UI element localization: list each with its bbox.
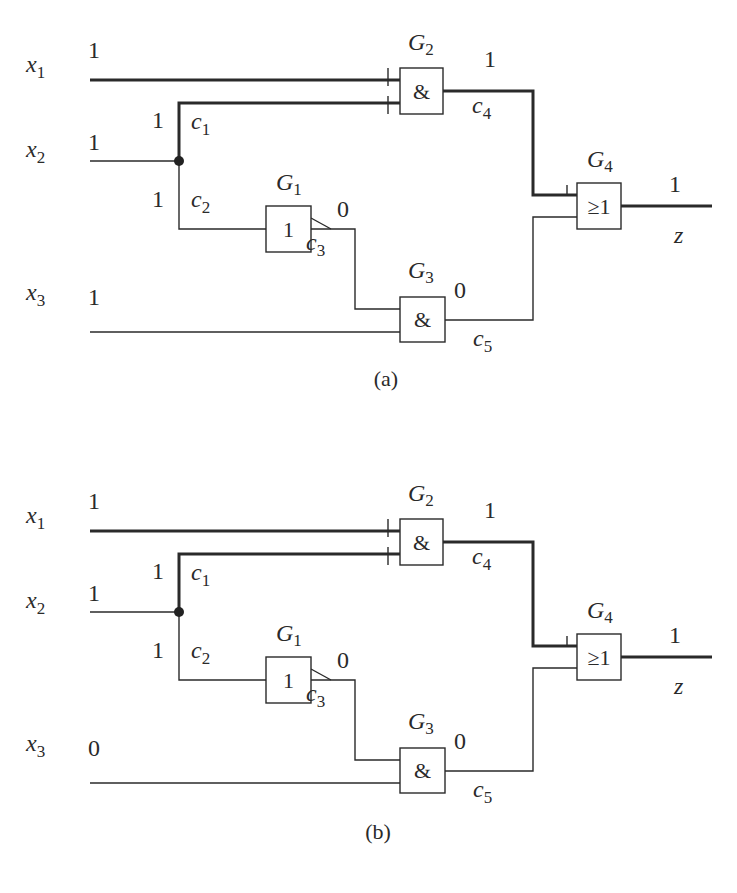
wire-c5 [445,668,577,771]
gate-g4-symbol: ≥1 [587,194,610,219]
output-z-label: z [673,222,684,248]
branch-c4-value: 1 [484,46,496,72]
branch-c3-label: c3 [306,680,325,711]
input-x1-value: 1 [88,488,100,514]
gate-g1-label: G1 [276,620,302,650]
gate-g3-label: G3 [408,708,434,738]
input-x3-value: 0 [88,735,100,761]
input-x3-label: x3 [25,730,45,761]
circuit-diagram-a: & 1 & ≥1 G2 G1 G3 G4 x1 1 x2 1 x3 1 1 c1… [25,29,712,391]
gate-g2-symbol: & [413,530,430,555]
input-x2-value: 1 [88,129,100,155]
branch-c2-value: 1 [152,637,164,663]
branch-c5-label: c5 [473,776,492,807]
inverter-bubble-line [311,218,331,229]
wire-c4 [443,91,577,195]
gate-g2-symbol: & [413,79,430,104]
output-z-label: z [673,673,684,699]
wire-c1 [179,554,400,612]
branch-c4-label: c4 [472,92,492,123]
branch-c5-label: c5 [473,325,492,356]
input-x2-value: 1 [88,580,100,606]
wire-c5 [445,217,577,320]
branch-c2-value: 1 [152,186,164,212]
circuit-diagram-b: & 1 & ≥1 G2 G1 G3 G4 x1 1 x2 1 x3 0 1 c1… [25,480,712,844]
gate-g1-symbol: 1 [283,217,294,242]
gate-g3-label: G3 [408,257,434,287]
gate-g1-label: G1 [276,169,302,199]
branch-c1-value: 1 [152,558,164,584]
branch-c1-label: c1 [191,108,210,139]
input-x1-label: x1 [25,51,45,82]
branch-c3-label: c3 [306,229,325,260]
gate-g2-label: G2 [408,480,434,510]
input-x3-label: x3 [25,279,45,310]
input-x1-label: x1 [25,502,45,533]
gate-g3-symbol: & [414,307,431,332]
figure-caption-a: (a) [374,366,398,391]
input-x1-value: 1 [88,37,100,63]
input-x2-label: x2 [25,136,45,167]
branch-c1-value: 1 [152,107,164,133]
input-x3-value: 1 [88,284,100,310]
logic-circuit-figure: & 1 & ≥1 G2 G1 G3 G4 x1 1 x2 1 x3 1 1 c1… [0,0,737,893]
gate-g1-symbol: 1 [283,668,294,693]
branch-c3-value: 0 [337,647,349,673]
gate-g4-symbol: ≥1 [587,645,610,670]
branch-c4-value: 1 [484,497,496,523]
fanout-junction-dot [174,607,184,617]
branch-c4-label: c4 [472,543,492,574]
branch-c1-label: c1 [191,559,210,590]
figure-caption-b: (b) [365,819,391,844]
input-x2-label: x2 [25,587,45,618]
branch-c2-label: c2 [191,186,210,217]
gate-g4-label: G4 [587,597,613,627]
wire-c4 [443,542,577,646]
output-z-value: 1 [669,622,681,648]
branch-c3-value: 0 [337,196,349,222]
fanout-junction-dot [174,156,184,166]
output-z-value: 1 [669,171,681,197]
inverter-bubble-line [311,669,331,680]
gate-g4-label: G4 [587,146,613,176]
branch-c5-value: 0 [454,728,466,754]
gate-g2-label: G2 [408,29,434,59]
branch-c5-value: 0 [454,277,466,303]
gate-g3-symbol: & [414,758,431,783]
branch-c2-label: c2 [191,637,210,668]
wire-c1 [179,103,400,161]
